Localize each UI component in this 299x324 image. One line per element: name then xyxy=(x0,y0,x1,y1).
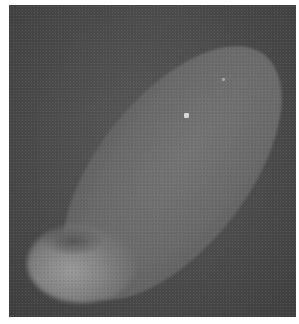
microscopy-image xyxy=(9,5,296,317)
image-grain xyxy=(9,5,296,317)
